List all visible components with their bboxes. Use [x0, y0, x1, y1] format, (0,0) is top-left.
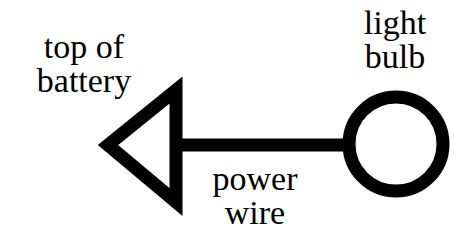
wire-label: power wire	[195, 162, 315, 230]
battery-triangle-icon	[108, 90, 176, 202]
battery-label: top of battery	[24, 30, 144, 98]
bulb-label: light bulb	[345, 6, 445, 74]
bulb-label-line1: light	[345, 6, 445, 40]
battery-label-line2: battery	[24, 64, 144, 98]
bulb-label-line2: bulb	[345, 40, 445, 74]
wire-label-line2: wire	[195, 196, 315, 230]
battery-label-line1: top of	[24, 30, 144, 64]
wire-label-line1: power	[195, 162, 315, 196]
light-bulb-circle-icon	[349, 97, 443, 191]
